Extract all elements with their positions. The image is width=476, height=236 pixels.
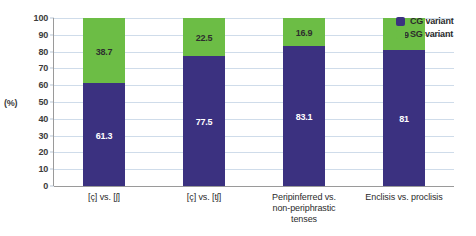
bar-group[interactable]: 61.338.7 [83, 18, 125, 186]
y-axis-tick-label: 60 [22, 80, 48, 90]
x-axis-category-label: Enclisis vs. proclisis [344, 192, 464, 203]
y-axis-tick-label: 70 [22, 63, 48, 73]
bar-value-label-cg: 77.5 [183, 117, 225, 127]
y-axis-tick-label: 40 [22, 114, 48, 124]
bar-value-label-cg: 81 [383, 114, 425, 124]
y-axis-tick-label: 90 [22, 30, 48, 40]
y-axis-tick-label: 10 [22, 164, 48, 174]
x-axis-line [54, 186, 454, 187]
x-axis-category-line: Enclisis vs. proclisis [344, 192, 464, 203]
legend-label: CG variant [410, 16, 454, 26]
legend: CG variantSG variant [396, 16, 454, 42]
y-axis-tick-label: 100 [22, 13, 48, 23]
legend-swatch-icon [396, 30, 405, 39]
y-axis-tick-label: 0 [22, 181, 48, 191]
y-axis-tick-label: 20 [22, 147, 48, 157]
y-axis-unit-label: (%) [4, 98, 17, 108]
plot-area: 61.338.777.522.583.116.98119 [54, 18, 454, 186]
legend-label: SG variant [410, 29, 453, 39]
bar-value-label-cg: 83.1 [283, 112, 325, 122]
bar-value-label-cg: 61.3 [83, 131, 125, 141]
y-axis-tick-label: 50 [22, 97, 48, 107]
stacked-bar-chart: (%) 0102030405060708090100 61.338.777.52… [0, 0, 476, 236]
legend-item-sg[interactable]: SG variant [396, 29, 454, 39]
bar-group[interactable]: 8119 [383, 18, 425, 186]
y-axis-tick-label: 30 [22, 131, 48, 141]
bar-group[interactable]: 83.116.9 [283, 18, 325, 186]
bar-value-label-sg: 22.5 [183, 33, 225, 43]
bar-value-label-sg: 16.9 [283, 28, 325, 38]
x-axis-category-line: non-periphrastic [244, 203, 364, 214]
bar-value-label-sg: 38.7 [83, 47, 125, 57]
legend-item-cg[interactable]: CG variant [396, 16, 454, 26]
y-axis-tick-label: 80 [22, 47, 48, 57]
legend-swatch-icon [396, 17, 405, 26]
bar-group[interactable]: 77.522.5 [183, 18, 225, 186]
x-axis-category-line: tenses [244, 214, 364, 225]
